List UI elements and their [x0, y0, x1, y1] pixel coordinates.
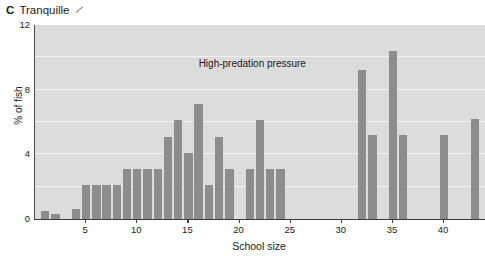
- chart-annotation: High-predation pressure: [199, 58, 306, 69]
- y-tick-label: 0: [25, 214, 30, 224]
- x-tick-label: 20: [233, 224, 244, 235]
- x-tick: [443, 219, 444, 223]
- page-title: Tranquille: [19, 4, 69, 16]
- bar: [123, 169, 131, 219]
- bar: [471, 119, 479, 219]
- x-tick: [341, 219, 342, 223]
- y-tick-label: 4: [25, 149, 30, 159]
- bar: [184, 153, 192, 219]
- y-tick-label: 12: [19, 20, 30, 30]
- bar: [113, 185, 121, 219]
- bar: [102, 185, 110, 219]
- x-tick: [187, 219, 188, 223]
- bar: [92, 185, 100, 219]
- bar: [205, 185, 213, 219]
- x-tick-label: 25: [284, 224, 295, 235]
- bar: [389, 51, 397, 219]
- bar: [225, 169, 233, 219]
- bar: [143, 169, 151, 219]
- x-axis-tick-labels: 510152025303540: [34, 224, 484, 238]
- x-tick: [290, 219, 291, 223]
- bar: [399, 135, 407, 219]
- bar: [164, 137, 172, 219]
- panel-letter: C: [6, 4, 14, 16]
- bar: [266, 169, 274, 219]
- bar: [82, 185, 90, 219]
- bar: [256, 120, 264, 219]
- bar: [72, 209, 80, 219]
- x-tick-label: 40: [438, 224, 449, 235]
- bar: [194, 104, 202, 219]
- x-tick-label: 35: [387, 224, 398, 235]
- tick-mark-icon: [75, 6, 84, 15]
- bar: [174, 120, 182, 219]
- bar: [440, 135, 448, 219]
- x-tick-label: 15: [182, 224, 193, 235]
- y-axis-tick-labels: 04812: [14, 18, 30, 218]
- x-axis-label: School size: [34, 240, 484, 252]
- y-tick-label: 8: [25, 85, 30, 95]
- bar: [276, 169, 284, 219]
- bar: [41, 211, 49, 219]
- bar: [358, 70, 366, 219]
- x-tick: [85, 219, 86, 223]
- x-tick: [239, 219, 240, 223]
- plot-area: High-predation pressure: [34, 25, 485, 220]
- x-tick-label: 30: [336, 224, 347, 235]
- bar: [215, 137, 223, 219]
- bar-chart: % of fish 04812 High-predation pressure …: [0, 18, 484, 267]
- bar: [154, 169, 162, 219]
- bar: [368, 135, 376, 219]
- bars-layer: [35, 25, 485, 219]
- bar: [133, 169, 141, 219]
- x-tick: [136, 219, 137, 223]
- x-tick: [392, 219, 393, 223]
- x-tick-label: 10: [131, 224, 142, 235]
- x-tick-label: 5: [82, 224, 87, 235]
- bar: [246, 169, 254, 219]
- figure-header: C Tranquille: [6, 2, 84, 18]
